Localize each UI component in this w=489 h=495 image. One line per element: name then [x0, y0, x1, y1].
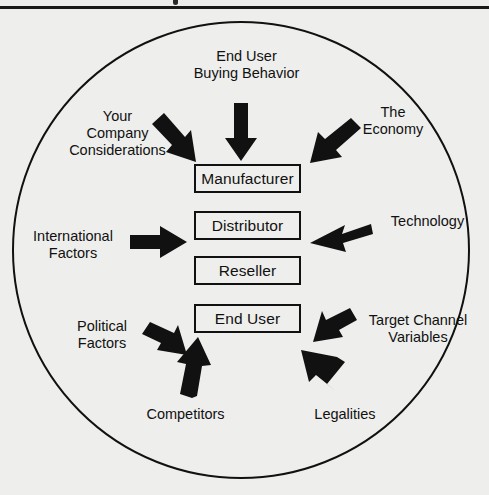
- label-political-factors: Political Factors: [58, 318, 146, 352]
- label-legalities: Legalities: [300, 406, 390, 423]
- label-competitors: Competitors: [133, 406, 238, 423]
- label-the-economy: The Economy: [348, 104, 438, 138]
- arrow-technology: [310, 224, 373, 252]
- node-distributor[interactable]: Distributor: [194, 211, 301, 240]
- node-manufacturer[interactable]: Manufacturer: [194, 164, 301, 193]
- diagram-page: Manufacturer Distributor Reseller End Us…: [0, 0, 489, 495]
- label-target-channel-variables: Target Channel Variables: [358, 312, 478, 346]
- label-your-company-considerations: Your Company Considerations: [60, 108, 175, 159]
- arrow-legalities: [301, 350, 345, 392]
- arrow-international-factors: [130, 226, 187, 258]
- arrow-political-factors: [142, 322, 187, 355]
- label-end-user-buying-behavior: End User Buying Behavior: [184, 48, 309, 82]
- arrow-target-channel-variables: [313, 308, 357, 342]
- arrow-end-user-buying-behavior: [225, 103, 257, 161]
- node-end-user[interactable]: End User: [194, 304, 301, 333]
- label-technology: Technology: [380, 213, 475, 230]
- label-international-factors: International Factors: [22, 228, 124, 262]
- node-reseller[interactable]: Reseller: [194, 256, 301, 285]
